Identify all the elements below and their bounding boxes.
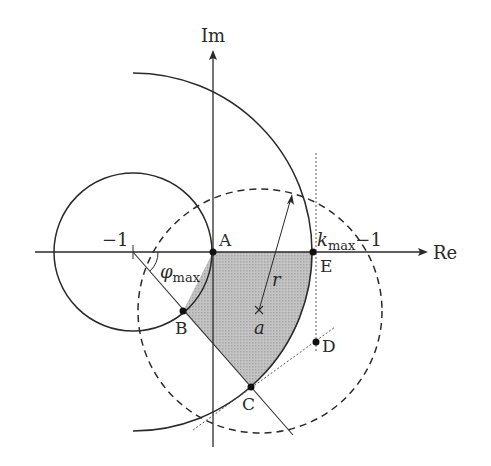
point-d-dot [313, 339, 320, 346]
point-e-label: E [320, 256, 332, 276]
point-b-label: B [175, 318, 188, 338]
kmax-label: kmax−1 [317, 229, 382, 253]
point-c-label: C [242, 394, 255, 414]
imag-axis-label: Im [201, 25, 225, 46]
center-label: a [254, 317, 265, 338]
point-c-dot [248, 384, 255, 391]
phi-symbol: φ [160, 261, 173, 282]
point-d-label: D [322, 336, 336, 356]
phi-max-angle-arc [150, 252, 158, 271]
k-subscript: max [328, 238, 356, 253]
k-symbol: k [317, 229, 328, 250]
point-a-dot [210, 249, 217, 256]
k-suffix: −1 [355, 229, 382, 250]
point-b-dot [180, 308, 187, 315]
point-e-dot [310, 249, 317, 256]
minus-one-label: −1 [102, 229, 129, 250]
radius-label: r [272, 269, 282, 290]
phi-max-label: φmax [160, 261, 201, 285]
real-axis-label: Re [433, 242, 457, 263]
point-a-label: A [218, 230, 232, 250]
shaded-region [183, 252, 313, 387]
phi-subscript: max [173, 270, 201, 285]
diagram-canvas: Im Re −1 φmax kmax−1 r a A B C D E [0, 0, 491, 466]
